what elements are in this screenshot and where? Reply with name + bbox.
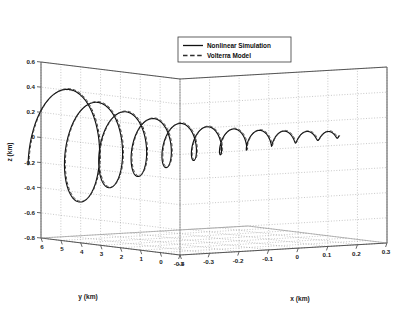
x-axis-ticks: -0.4-0.3-0.2-0.100.10.20.3 [174,243,391,267]
tick-label: -0.4 [174,260,185,267]
tick-label: 3 [100,250,104,257]
curve-volterra-model [29,89,340,202]
y-axis-title: y (km) [78,293,97,301]
z-axis-title: z (km) [6,142,14,161]
tick-label: -0.1 [262,255,273,262]
tick-label: 6 [40,243,44,250]
figure-caption [0,320,411,328]
data-curves [28,89,340,202]
tick-label: 0.1 [323,251,332,258]
tick-label: 0.4 [26,83,35,90]
figure-3d-trajectory-plot: 0.60.40.20-0.2-0.4-0.6-0.8 6543210-1 -0.… [0,0,411,328]
tick-label: 0.3 [382,248,391,255]
tick-label: -0.4 [24,184,35,191]
tick-label: -0.8 [24,234,35,241]
tick-label: 0.2 [26,108,35,115]
grid-left-wall [41,62,180,255]
tick-label: -0.2 [233,257,244,264]
tick-label: 2 [120,253,124,260]
tick-label: 0.2 [352,250,361,257]
tick-label: -0.6 [24,209,35,216]
legend-label-volterra-model: Volterra Model [207,52,251,59]
legend-label-nonlinear-simulation: Nonlinear Simulation [207,42,271,49]
tick-label: -0.2 [24,159,35,166]
plot-canvas: 0.60.40.20-0.2-0.4-0.6-0.8 6543210-1 -0.… [0,0,411,328]
z-axis-ticks: 0.60.40.20-0.2-0.4-0.6-0.8 [24,58,41,241]
grid-right-wall [180,67,387,255]
tick-label: 4 [80,248,84,255]
x-axis-title: x (km) [290,295,309,303]
tick-label: 0.6 [26,58,35,65]
curve-nonlinear-simulation [28,89,339,202]
tick-label: 5 [60,245,64,252]
tick-label: 1 [140,255,144,262]
tick-label: 0 [32,133,36,140]
tick-label: 0 [159,258,163,265]
axis-frame [41,62,387,255]
tick-label: 0 [296,253,300,260]
grid-floor [41,226,387,255]
tick-label: -0.3 [203,258,214,265]
legend: Nonlinear Simulation Volterra Model [178,37,291,62]
